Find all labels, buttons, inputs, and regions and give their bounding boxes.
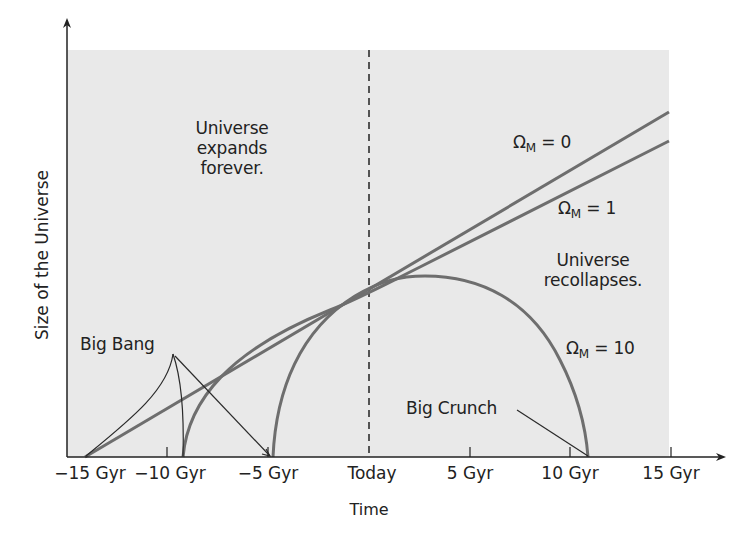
annotation-big-crunch: Big Crunch: [406, 398, 497, 418]
annotation-big-bang: Big Bang: [80, 334, 155, 354]
region-recollapses-line-2: recollapses.: [528, 270, 658, 290]
omega-value: = 10: [594, 338, 634, 358]
region-expands-line-1: Universe: [172, 118, 292, 138]
omega-subscript: M: [526, 141, 536, 155]
omega-symbol: Ω: [558, 198, 571, 218]
omega-symbol: Ω: [513, 132, 526, 152]
omega-value: = 1: [586, 198, 616, 218]
omega-symbol: Ω: [566, 338, 579, 358]
tick-label-15: 15 Gyr: [642, 463, 699, 483]
tick-label-minus-5: −5 Gyr: [238, 463, 299, 483]
region-label-expands: Universe expands forever.: [172, 118, 292, 178]
tick-label-minus-10: −10 Gyr: [134, 463, 206, 483]
region-label-recollapses: Universe recollapses.: [528, 250, 658, 290]
tick-label-today: Today: [347, 463, 396, 483]
omega-subscript: M: [579, 347, 589, 361]
tick-label-5: 5 Gyr: [447, 463, 493, 483]
label-omega-0: ΩM = 0: [513, 132, 571, 158]
y-axis-label: Size of the Universe: [32, 170, 52, 340]
expansion-diagram: Size of the Universe Time −15 Gyr −10 Gy…: [0, 0, 751, 540]
label-omega-1: ΩM = 1: [558, 198, 616, 224]
tick-label-minus-15: −15 Gyr: [54, 463, 126, 483]
tick-label-10: 10 Gyr: [541, 463, 598, 483]
region-recollapses-line-1: Universe: [528, 250, 658, 270]
label-omega-10: ΩM = 10: [566, 338, 635, 364]
region-expands-line-3: forever.: [172, 158, 292, 178]
x-axis-label: Time: [349, 500, 388, 519]
omega-value: = 0: [541, 132, 571, 152]
region-expands-line-2: expands: [172, 138, 292, 158]
omega-subscript: M: [571, 207, 581, 221]
